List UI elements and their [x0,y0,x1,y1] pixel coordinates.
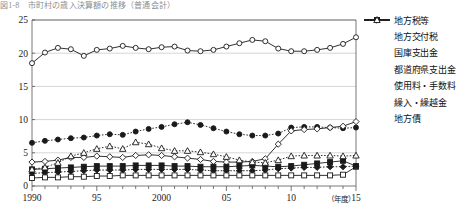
data-point-marker [341,172,346,177]
data-point-marker [146,126,151,131]
x-axis-unit-label: （年度） [327,194,355,204]
data-point-marker [94,47,99,52]
legend-item-6[interactable]: 地方債 [362,110,474,126]
data-point-marker [354,125,359,130]
data-point-marker [224,129,229,134]
legend-label: 地方交付税 [392,30,438,43]
data-point-marker [328,45,333,50]
data-point-marker [263,173,268,178]
data-point-marker [224,164,229,169]
data-point-marker [55,137,60,142]
x-tick-label: 2000 [152,193,171,203]
data-point-marker [211,47,216,52]
data-point-marker [146,163,151,168]
series-line [32,122,356,163]
y-tick-label: 25 [19,15,29,25]
data-point-marker [68,174,73,179]
legend-label: 地方税等 [392,14,429,27]
data-point-marker [315,173,320,178]
data-point-marker [120,43,125,48]
data-point-marker [145,141,151,147]
data-point-marker [159,152,165,158]
data-point-marker [159,173,164,178]
data-point-marker [68,153,74,159]
data-point-marker [289,164,294,169]
legend-item-1[interactable]: 地方交付税 [362,28,474,44]
data-point-marker [68,136,73,141]
data-point-marker [120,154,126,160]
data-point-marker [250,37,255,42]
x-tick-label: 05 [222,193,232,203]
legend-item-2[interactable]: 国庫支出金 [362,45,474,61]
data-point-marker [30,140,35,145]
data-point-marker [81,174,86,179]
data-point-marker [133,129,138,134]
series-2 [29,118,359,165]
data-point-marker [354,35,359,40]
filled-circle-icon [362,29,392,45]
data-point-marker [94,174,99,179]
data-point-marker [263,39,268,44]
legend-label: 使用料・手数料 [392,79,456,92]
data-point-marker [172,122,177,127]
data-point-marker [120,164,125,169]
data-point-marker [107,143,113,149]
data-point-marker [276,131,281,136]
data-point-marker [302,162,307,167]
data-point-marker [42,138,47,143]
legend-item-5[interactable]: 繰入・繰越金 [362,94,474,110]
data-point-marker [289,173,294,178]
data-point-marker [289,49,294,54]
data-point-marker [302,173,307,178]
data-point-marker [224,173,229,178]
data-point-marker [107,154,113,160]
data-point-marker [146,47,151,52]
data-point-marker [250,173,255,178]
data-point-marker [81,164,86,169]
data-point-marker [198,49,203,54]
data-point-marker [30,176,35,181]
data-point-marker [197,156,203,162]
data-point-marker [198,164,203,169]
data-point-marker [133,152,139,158]
data-point-marker [237,173,242,178]
y-tick-label: 5 [23,148,28,158]
data-point-marker [158,145,164,151]
data-point-marker [81,53,86,58]
data-point-marker [315,47,320,52]
series-1 [30,120,359,146]
data-point-marker [133,163,138,168]
series-0 [30,35,359,66]
chart-container: 図1-8 市町村の歳入決算額の推移（普通会計） 0510152025199095… [0,0,474,210]
data-point-marker [55,45,60,50]
x-tick-label: 10 [286,193,296,203]
series-line [32,37,356,63]
data-point-marker [107,132,112,137]
data-point-marker [55,175,60,180]
data-point-marker [276,46,281,51]
legend-item-3[interactable]: 都道府県支出金 [362,61,474,77]
data-point-marker [328,160,333,165]
data-point-marker [42,50,47,55]
legend-item-4[interactable]: 使用料・手数料 [362,78,474,94]
data-point-marker [198,122,203,127]
data-point-marker [327,124,333,130]
data-point-marker [107,164,112,169]
y-tick-label: 15 [19,82,29,92]
data-point-marker [172,44,177,49]
y-tick-label: 0 [23,181,28,191]
series-5 [30,158,359,172]
legend-label: 繰入・繰越金 [392,96,447,109]
data-point-marker [250,133,255,138]
data-point-marker [198,173,203,178]
data-point-marker [172,164,177,169]
data-point-marker [132,139,138,145]
data-point-marker [354,164,359,169]
legend-label: 国庫支出金 [392,46,438,59]
filled-square-icon [362,94,392,110]
open-diamond-icon [362,45,392,61]
data-point-marker [133,45,138,50]
data-point-marker [120,173,125,178]
data-point-marker [94,153,100,159]
data-point-marker [133,173,138,178]
